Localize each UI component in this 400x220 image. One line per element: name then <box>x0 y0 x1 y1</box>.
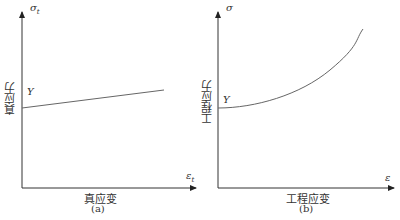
epsilon-symbol: ε <box>385 172 390 183</box>
sigma-subscript: t <box>37 8 40 16</box>
sigma-symbol: σ <box>226 2 233 13</box>
y-axis-symbol-b: σ <box>226 2 233 13</box>
caption-a: (a) <box>91 203 105 214</box>
true-stress-line <box>22 90 164 108</box>
yield-label-b: Y <box>223 94 230 105</box>
y-axis-title-a: 真应力 <box>3 82 19 115</box>
x-axis-symbol-a: εt <box>186 170 194 184</box>
sigma-symbol: σ <box>30 2 37 13</box>
caption-b: (b) <box>299 203 313 214</box>
panel-b <box>218 12 394 188</box>
y-axis-title-b: 工程应力 <box>200 80 216 124</box>
engineering-stress-curve <box>218 29 363 108</box>
x-axis-symbol-b: ε <box>385 172 390 183</box>
epsilon-subscript: t <box>191 176 194 184</box>
panel-a <box>22 12 196 188</box>
yield-label-a: Y <box>27 86 34 97</box>
y-axis-symbol-a: σt <box>30 2 40 16</box>
